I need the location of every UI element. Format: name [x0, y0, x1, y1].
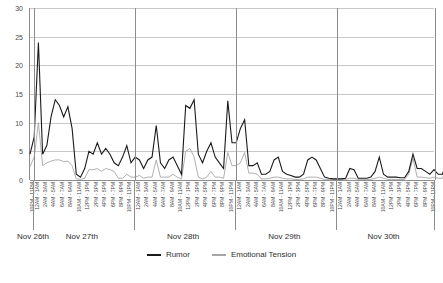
legend-label: Rumor: [166, 250, 190, 259]
x-axis-tick-label: 2AM - 3AM: [347, 182, 353, 207]
legend-item[interactable]: Rumor: [147, 250, 190, 259]
y-axis-tick-label: 20: [15, 62, 23, 69]
x-axis-tick-label: 6AM - 7AM: [161, 182, 167, 207]
x-axis-tick-label: 8PM - 9PM: [423, 182, 429, 207]
x-axis-tick-label: 2PM - 3PM: [296, 182, 302, 207]
chart-legend: RumorEmotional Tension: [0, 250, 443, 259]
day-separator-lower: [134, 180, 135, 230]
day-label: Nov 29th: [268, 232, 300, 242]
x-axis-tick-label: 6PM - 7PM: [414, 182, 420, 207]
y-axis-tick-label: 25: [15, 33, 23, 40]
x-axis-tick-label: 12AM - 1AM: [35, 182, 41, 210]
x-axis-tick-label: 10AM - 11AM: [178, 182, 184, 212]
x-axis-tick-label: 2PM - 3PM: [94, 182, 100, 207]
x-axis-tick-label: 6AM - 7AM: [364, 182, 370, 207]
x-axis-tick-label: 2AM - 3AM: [43, 182, 49, 207]
legend-item[interactable]: Emotional Tension: [212, 250, 296, 259]
x-axis-tick-label: 8AM - 9AM: [271, 182, 277, 207]
x-axis-tick-label: 4PM - 5PM: [102, 182, 108, 207]
day-separator-line: [236, 8, 237, 180]
x-axis-tick-label: 10AM - 11AM: [279, 182, 285, 212]
day-label: Nov 26th: [17, 232, 49, 242]
day-label: Nov 27th: [66, 232, 98, 242]
x-axis-tick-labels: 10PM - 11PM12AM - 1AM2AM - 3AM4AM - 5AM6…: [29, 180, 434, 230]
x-axis-tick-label: 12PM - 1PM: [85, 182, 91, 210]
x-axis-tick-label: 12PM - 1PM: [186, 182, 192, 210]
y-axis: 051015202530: [0, 8, 26, 180]
plot-wrapper: 051015202530 10PM - 11PM12AM - 1AM2AM - …: [0, 8, 443, 188]
x-axis-tick-label: 10PM - 11PM: [127, 182, 133, 212]
x-axis-tick-label: 10AM - 11AM: [77, 182, 83, 212]
x-axis-tick-label: 4AM - 5AM: [51, 182, 57, 207]
x-axis-tick-label: 12AM - 1AM: [338, 182, 344, 210]
legend-label: Emotional Tension: [231, 250, 296, 259]
day-separator-line: [34, 8, 35, 180]
day-label: Nov 30th: [367, 232, 399, 242]
x-axis-tick-label: 8AM - 9AM: [68, 182, 74, 207]
x-axis-tick-label: 2PM - 3PM: [195, 182, 201, 207]
y-axis-tick-label: 0: [19, 177, 23, 184]
x-axis-tick-label: 8AM - 9AM: [372, 182, 378, 207]
x-axis-tick-label: 4AM - 5AM: [355, 182, 361, 207]
day-separator-lower: [235, 180, 236, 230]
x-axis-tick-label: 2AM - 3AM: [144, 182, 150, 207]
x-axis-tick-label: 12AM - 1AM: [136, 182, 142, 210]
day-separator-lower: [33, 180, 34, 230]
x-axis-tick-label: 6PM - 7PM: [212, 182, 218, 207]
day-separator-line: [135, 8, 136, 180]
legend-swatch-icon: [147, 254, 161, 256]
x-axis-tick-label: 10AM - 11AM: [381, 182, 387, 212]
x-axis-tick-label: 6AM - 7AM: [60, 182, 66, 207]
x-axis-tick-label: 4AM - 5AM: [153, 182, 159, 207]
plot-right-border: [435, 8, 436, 180]
x-axis-tick-label: 8AM - 9AM: [170, 182, 176, 207]
series-layer: [30, 8, 434, 180]
line-chart: 051015202530 10PM - 11PM12AM - 1AM2AM - …: [0, 0, 443, 283]
x-axis-tick-label: 2AM - 3AM: [246, 182, 252, 207]
legend-swatch-icon: [212, 254, 226, 256]
x-axis-tick-label: 4PM - 5PM: [203, 182, 209, 207]
y-axis-tick-label: 10: [15, 119, 23, 126]
x-axis-tick-label: 4PM - 5PM: [305, 182, 311, 207]
y-axis-tick-label: 15: [15, 91, 23, 98]
x-axis-tick-label: 6PM - 7PM: [313, 182, 319, 207]
y-axis-tick-label: 30: [15, 5, 23, 12]
x-axis-tick-label: 4PM - 5PM: [406, 182, 412, 207]
x-axis-tick-label: 6PM - 7PM: [111, 182, 117, 207]
x-axis-tick-label: 8PM - 9PM: [220, 182, 226, 207]
day-group-labels: Nov 26thNov 27thNov 28thNov 29thNov 30th: [29, 232, 434, 246]
label-band-right-border: [434, 180, 435, 230]
x-axis-tick-label: 8PM - 9PM: [119, 182, 125, 207]
x-axis-tick-label: 12PM - 1PM: [288, 182, 294, 210]
day-separator-lower: [336, 180, 337, 230]
x-axis-tick-label: 12AM - 1AM: [237, 182, 243, 210]
x-axis-tick-label: 12PM - 1PM: [389, 182, 395, 210]
day-label: Nov 28th: [167, 232, 199, 242]
day-separator-line: [337, 8, 338, 180]
x-axis-tick-label: 10PM - 11PM: [229, 182, 235, 212]
x-axis-tick-label: 2PM - 3PM: [397, 182, 403, 207]
plot-area: [29, 8, 434, 180]
x-axis-tick-label: 8PM - 9PM: [321, 182, 327, 207]
x-axis-tick-label: 6AM - 7AM: [262, 182, 268, 207]
x-axis-tick-label: 4AM - 5AM: [254, 182, 260, 207]
y-axis-tick-label: 5: [19, 148, 23, 155]
x-axis-tick-label: 10PM - 11PM: [330, 182, 336, 212]
